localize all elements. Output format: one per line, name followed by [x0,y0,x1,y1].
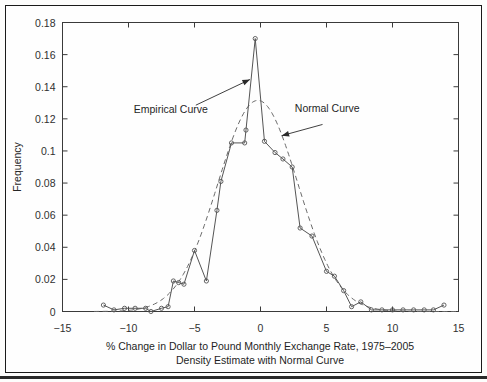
x-axis-ticks: −15−10−5051015 [54,23,465,334]
y-axis-ticks: 00.020.040.060.080.10.120.140.160.18 [35,17,458,318]
annotation-arrowhead [242,79,250,85]
annotation-label: Normal Curve [295,102,360,114]
y-tick-label: 0.12 [35,113,56,125]
x-axis-title-line2: Density Estimate with Normal Curve [176,354,344,366]
x-axis-title-line1: % Change in Dollar to Pound Monthly Exch… [106,340,414,352]
y-tick-label: 0.16 [35,49,56,61]
annotation-arrow-line [196,79,250,105]
density-plot: 00.020.040.060.080.10.120.140.160.18 −15… [0,0,487,382]
y-tick-label: 0.04 [35,241,56,253]
x-tick-label: −5 [189,322,201,334]
y-tick-label: 0 [50,306,56,318]
empirical-curve-markers [101,36,446,313]
y-tick-label: 0.1 [41,145,56,157]
annotation-arrowhead [282,131,290,137]
x-tick-label: 15 [453,322,465,334]
x-tick-label: 10 [387,322,399,334]
x-tick-label: −10 [120,322,138,334]
y-tick-label: 0.14 [35,81,56,93]
x-tick-label: −15 [54,322,72,334]
x-tick-label: 5 [324,322,330,334]
y-tick-label: 0.06 [35,209,56,221]
normal-curve-line [94,100,456,311]
y-tick-label: 0.02 [35,273,56,285]
axes-box [63,23,459,312]
y-axis-title: Frequency [11,141,23,191]
x-tick-label: 0 [258,322,264,334]
empirical-curve-line [103,39,444,312]
y-tick-label: 0.08 [35,177,56,189]
y-tick-label: 0.18 [35,17,56,29]
figure-container: 00.020.040.060.080.10.120.140.160.18 −15… [0,0,487,382]
